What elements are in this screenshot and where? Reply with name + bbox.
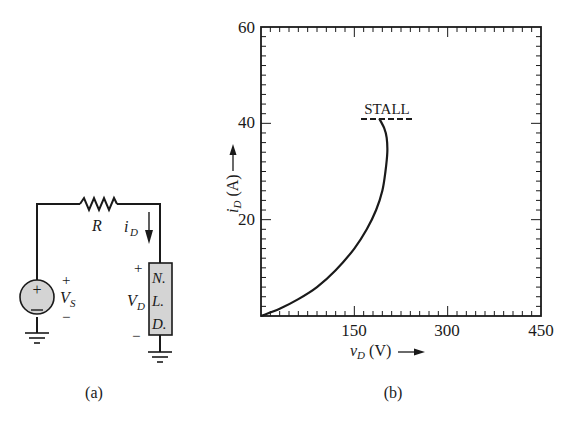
resistor-label: R <box>91 217 102 234</box>
source-minus-label: − <box>62 309 70 325</box>
x-tick-300: 300 <box>434 321 460 340</box>
stall-label: STALL <box>364 101 409 117</box>
y-axis-sub: D <box>231 201 243 210</box>
ground-icon-device <box>148 352 172 362</box>
source-inner-plus: + <box>32 281 41 298</box>
y-axis-label: iD (A) <box>224 144 243 213</box>
current-label-sub: D <box>129 226 138 238</box>
plot-frame <box>261 27 541 316</box>
characteristic-curve <box>261 119 387 316</box>
source-plus-label: + <box>62 272 70 288</box>
svg-text:vD (V): vD (V) <box>350 342 391 361</box>
device-voltage-sub: D <box>136 300 145 312</box>
figure-canvas: + N. L. D. R i D + V S − + V D − (a) 60 … <box>0 0 565 425</box>
device-plus-label: + <box>134 260 142 276</box>
device-text-n: N. <box>151 270 166 286</box>
voltage-source-icon: + <box>20 280 54 314</box>
x-axis-arrow-icon <box>414 349 425 356</box>
x-axis-sub: D <box>356 349 365 361</box>
current-label: i <box>124 218 128 235</box>
y-tick-60: 60 <box>238 18 255 37</box>
ground-icon-source <box>25 333 49 343</box>
y-axis-arrow-icon <box>230 144 237 155</box>
source-voltage-sub: S <box>70 297 76 309</box>
device-text-l: L. <box>151 293 164 309</box>
x-tick-450: 450 <box>528 321 554 340</box>
x-tick-150: 150 <box>341 321 367 340</box>
y-axis-unit: (A) <box>224 174 242 200</box>
wire-top-left <box>37 204 80 289</box>
caption-a: (a) <box>85 384 103 402</box>
y-tick-40: 40 <box>238 113 255 132</box>
device-minus-label: − <box>132 328 140 344</box>
svg-text:iD (A): iD (A) <box>224 174 243 213</box>
current-arrow-icon <box>145 212 153 244</box>
resistor-icon <box>80 198 117 210</box>
device-text-d: D. <box>151 316 167 332</box>
x-axis-label: vD (V) <box>350 342 425 361</box>
caption-b: (b) <box>384 384 403 402</box>
x-axis-unit: (V) <box>365 342 391 360</box>
